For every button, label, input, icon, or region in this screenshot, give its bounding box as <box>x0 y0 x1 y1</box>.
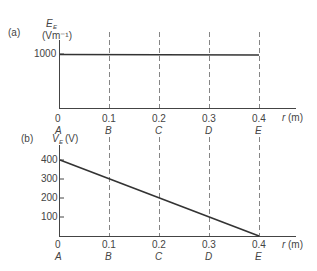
panel-a-label: (a) <box>8 27 20 38</box>
point-label-D-b: D <box>205 251 212 262</box>
gridlines-b <box>110 137 260 236</box>
y-tick-label-a: 1000 <box>34 48 57 59</box>
panel-b-label: (b) <box>21 133 33 144</box>
point-label-A-b: A <box>54 251 62 262</box>
point-label-B-a: B <box>105 125 112 136</box>
x-tick-0-b: 0 <box>55 239 61 250</box>
x-tick-2-a: 0.2 <box>152 113 166 124</box>
y-label-b-unit: (V) <box>65 133 78 144</box>
point-label-B-b: B <box>105 251 112 262</box>
x-label-b-unit: (m) <box>288 239 303 250</box>
point-label-E-a: E <box>255 125 262 136</box>
gridlines-a <box>110 32 260 108</box>
point-label-E-b: E <box>255 251 262 262</box>
figure: (a) E E (Vm⁻¹) 1000 0 0.1 0.2 0.3 0.4 A … <box>0 0 317 271</box>
panel-a: (a) E E (Vm⁻¹) 1000 0 0.1 0.2 0.3 0.4 A … <box>8 18 303 136</box>
y-label-a-unit: (Vm⁻¹) <box>42 30 72 41</box>
y-tick-300: 300 <box>41 173 58 184</box>
x-label-a-var: r <box>282 112 286 123</box>
x-tick-4-a: 0.4 <box>252 113 266 124</box>
y-tick-100: 100 <box>41 211 58 222</box>
x-tick-3-a: 0.3 <box>202 113 216 124</box>
x-tick-3-b: 0.3 <box>202 239 216 250</box>
point-label-C-a: C <box>155 125 163 136</box>
data-line-a <box>60 55 259 56</box>
x-tick-0-a: 0 <box>55 113 61 124</box>
x-tick-1-a: 0.1 <box>102 113 116 124</box>
point-label-D-a: D <box>205 125 212 136</box>
y-tick-400: 400 <box>41 154 58 165</box>
x-label-b-var: r <box>282 239 286 250</box>
point-label-C-b: C <box>155 251 163 262</box>
x-tick-4-b: 0.4 <box>252 239 266 250</box>
y-label-a-main: E <box>46 18 53 29</box>
x-tick-1-b: 0.1 <box>102 239 116 250</box>
y-label-b-sub: E <box>59 139 64 145</box>
panel-b: (b) V E (V) 100 200 300 400 0 0.1 0.2 <box>21 133 303 262</box>
x-tick-2-b: 0.2 <box>152 239 166 250</box>
y-tick-200: 200 <box>41 192 58 203</box>
x-label-a-unit: (m) <box>288 112 303 123</box>
